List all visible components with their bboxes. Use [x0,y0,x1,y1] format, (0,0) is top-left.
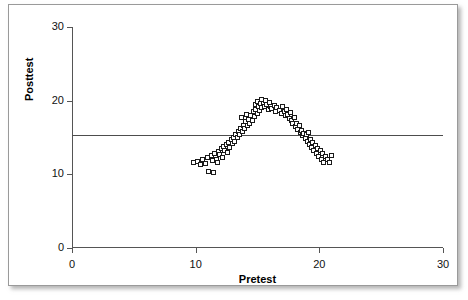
data-point [203,161,208,166]
x-tick-0 [72,248,73,253]
y-tick-label-30: 30 [16,21,64,32]
regression-line [72,135,443,136]
x-tick-label-30: 30 [423,259,463,270]
x-tick-20 [319,248,320,253]
data-point [215,160,220,165]
y-tick-30 [67,27,72,28]
x-tick-label-0: 0 [52,259,92,270]
y-axis-line [72,27,73,248]
x-tick-label-20: 20 [299,259,339,270]
figure-container: 0102030 0102030 Posttest Pretest [0,0,468,300]
x-tick-label-10: 10 [176,259,216,270]
y-tick-10 [67,174,72,175]
x-tick-10 [196,248,197,253]
y-tick-label-0: 0 [16,242,64,253]
plot-area [72,27,443,248]
data-point [225,150,230,155]
x-tick-30 [443,248,444,253]
data-point [306,130,311,135]
y-tick-label-10: 10 [16,168,64,179]
data-point [211,170,216,175]
data-point [327,160,332,165]
y-axis-title: Posttest [23,58,35,101]
x-axis-title: Pretest [72,273,443,285]
data-point [220,155,225,160]
y-tick-20 [67,101,72,102]
x-axis-line [72,247,443,248]
figure-frame: 0102030 0102030 Posttest Pretest [8,4,458,286]
data-point [329,153,334,158]
